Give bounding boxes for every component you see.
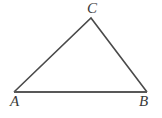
vertex-label-c: C <box>87 1 97 16</box>
triangle-svg <box>0 0 162 118</box>
triangle-figure: C A B <box>0 0 162 118</box>
triangle-sides <box>14 18 147 92</box>
vertex-label-b: B <box>139 94 148 109</box>
vertex-label-a: A <box>10 94 19 109</box>
